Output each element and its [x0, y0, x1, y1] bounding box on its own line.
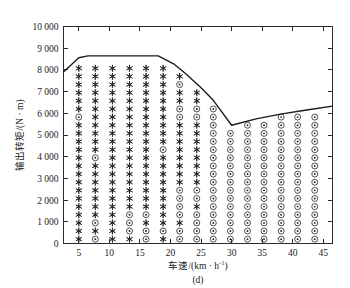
- marker-circle-dot: [210, 220, 216, 226]
- marker-circle-dot: [227, 187, 233, 193]
- marker-star: [76, 204, 81, 210]
- marker-star: [93, 204, 98, 210]
- marker-circle-dot: [278, 187, 284, 193]
- marker-star: [93, 163, 98, 169]
- marker-circle-dot: [312, 236, 318, 242]
- marker-circle-dot: [278, 147, 284, 153]
- y-tick-label: 8 000: [37, 65, 59, 75]
- marker-circle-dot: [278, 171, 284, 177]
- marker-star: [143, 147, 148, 153]
- marker-star: [110, 122, 115, 128]
- marker-star: [177, 130, 182, 136]
- marker-circle-dot: [261, 171, 267, 177]
- x-tick-label: 10: [105, 248, 115, 258]
- marker-circle-dot: [278, 228, 284, 234]
- marker-star: [110, 82, 115, 88]
- marker-circle-dot: [261, 220, 267, 226]
- marker-circle-dot: [210, 212, 216, 218]
- marker-star: [127, 65, 132, 71]
- marker-circle-dot: [245, 171, 251, 177]
- marker-circle-dot: [312, 130, 318, 136]
- marker-circle-dot: [245, 179, 251, 185]
- marker-circle-dot: [278, 195, 284, 201]
- marker-circle-dot: [210, 114, 216, 120]
- marker-star: [143, 204, 148, 210]
- marker-circle-dot: [210, 179, 216, 185]
- marker-circle-dot: [261, 147, 267, 153]
- marker-star: [161, 90, 166, 96]
- marker-circle-dot: [194, 106, 200, 112]
- marker-star: [127, 130, 132, 136]
- marker-star: [177, 139, 182, 145]
- y-tick-label: 6 000: [37, 109, 59, 119]
- marker-star: [194, 90, 199, 96]
- marker-circle-dot: [261, 163, 267, 169]
- marker-star: [177, 163, 182, 169]
- marker-star: [143, 139, 148, 145]
- figure-panel-d: 01 0002 0003 0004 0005 0006 0007 0008 00…: [0, 0, 350, 288]
- marker-circle-dot: [210, 122, 216, 128]
- marker-circle-dot: [261, 179, 267, 185]
- marker-circle-dot: [295, 212, 301, 218]
- marker-circle-dot: [227, 147, 233, 153]
- marker-star: [93, 147, 98, 153]
- marker-circle-dot: [245, 195, 251, 201]
- marker-star: [161, 122, 166, 128]
- marker-circle-dot: [227, 212, 233, 218]
- marker-circle-dot: [227, 204, 233, 210]
- marker-circle-dot: [177, 187, 183, 193]
- marker-star: [194, 204, 199, 210]
- marker-star: [177, 147, 182, 153]
- marker-circle-dot: [245, 236, 251, 242]
- marker-circle-dot: [194, 187, 200, 193]
- marker-circle-dot: [210, 139, 216, 145]
- marker-star: [76, 179, 81, 185]
- marker-circle-dot: [261, 195, 267, 201]
- marker-star: [110, 114, 115, 120]
- marker-circle-dot: [278, 220, 284, 226]
- marker-star: [161, 236, 166, 242]
- y-tick-label: 7 000: [37, 87, 59, 97]
- marker-star: [143, 187, 148, 193]
- marker-star: [76, 65, 81, 71]
- marker-star: [110, 195, 115, 201]
- marker-star: [127, 163, 132, 169]
- marker-star: [143, 122, 148, 128]
- marker-star: [110, 147, 115, 153]
- plot-frame: [64, 27, 333, 244]
- marker-circle-dot: [177, 114, 183, 120]
- marker-star: [177, 122, 182, 128]
- marker-star: [161, 155, 166, 161]
- marker-circle-dot: [261, 187, 267, 193]
- marker-star: [93, 98, 98, 104]
- marker-star: [93, 114, 98, 120]
- x-tick-label: 20: [166, 248, 176, 258]
- marker-circle-dot: [312, 114, 318, 120]
- marker-star: [161, 139, 166, 145]
- marker-circle-dot: [127, 220, 133, 226]
- marker-circle-dot: [227, 220, 233, 226]
- marker-circle-dot: [210, 106, 216, 112]
- marker-circle-dot: [295, 139, 301, 145]
- marker-star: [177, 155, 182, 161]
- marker-circle-dot: [210, 195, 216, 201]
- marker-circle-dot: [278, 179, 284, 185]
- y-tick-label: 0: [54, 239, 59, 249]
- marker-circle-dot: [177, 204, 183, 210]
- marker-circle-dot: [312, 171, 318, 177]
- marker-circle-dot: [227, 195, 233, 201]
- marker-star: [110, 65, 115, 71]
- marker-star: [161, 65, 166, 71]
- marker-star: [93, 122, 98, 128]
- marker-star: [161, 171, 166, 177]
- marker-circle-dot: [261, 228, 267, 234]
- marker-circle-dot: [227, 155, 233, 161]
- marker-star: [93, 106, 98, 112]
- marker-star: [127, 155, 132, 161]
- marker-star: [177, 220, 182, 226]
- marker-star: [110, 155, 115, 161]
- marker-circle-dot: [210, 236, 216, 242]
- marker-star: [93, 187, 98, 193]
- marker-star: [110, 106, 115, 112]
- marker-star: [161, 82, 166, 88]
